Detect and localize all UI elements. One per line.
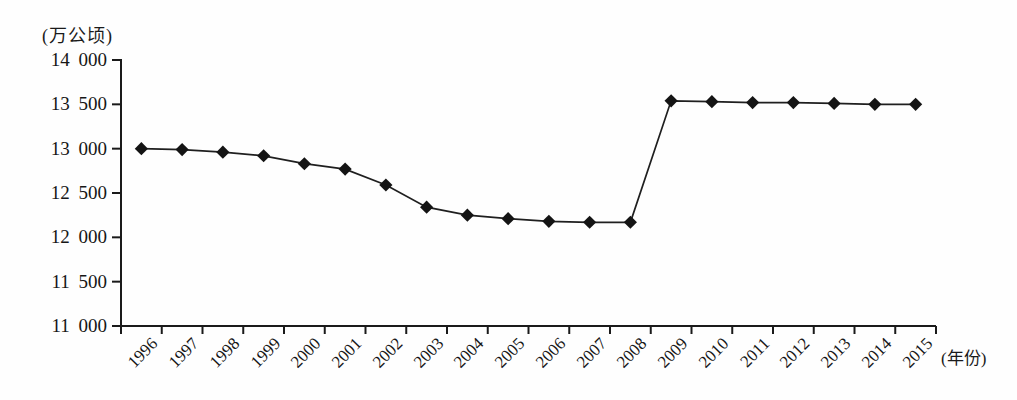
data-point-marker	[257, 149, 270, 162]
data-point-marker	[909, 98, 922, 111]
data-point-marker	[379, 178, 392, 191]
data-point-marker	[705, 95, 718, 108]
data-point-marker	[135, 142, 148, 155]
data-point-marker	[624, 216, 637, 229]
data-point-marker	[420, 201, 433, 214]
data-point-marker	[461, 209, 474, 222]
data-point-marker	[665, 94, 678, 107]
data-point-marker	[868, 98, 881, 111]
data-point-marker	[216, 146, 229, 159]
y-tick-label: 13 000	[51, 138, 107, 159]
y-tick-label: 13 500	[51, 93, 107, 114]
data-point-marker	[502, 212, 515, 225]
y-tick-label: 11 500	[51, 271, 107, 292]
data-point-marker	[339, 162, 352, 175]
data-point-marker	[746, 96, 759, 109]
y-tick-label: 12 000	[51, 226, 107, 247]
y-tick-label: 12 500	[51, 182, 107, 203]
data-point-marker	[787, 96, 800, 109]
data-point-marker	[298, 157, 311, 170]
land-area-line-chart: (万公顷) 11 00011 50012 00012 50013 00013 5…	[0, 0, 1017, 400]
data-point-marker	[583, 216, 596, 229]
x-axis-unit-label: (年份)	[941, 344, 986, 369]
trend-line	[141, 101, 915, 223]
data-point-marker	[828, 97, 841, 110]
data-point-marker	[542, 215, 555, 228]
y-tick-label: 14 000	[51, 49, 107, 70]
y-tick-label: 11 000	[51, 315, 107, 336]
data-point-marker	[176, 143, 189, 156]
